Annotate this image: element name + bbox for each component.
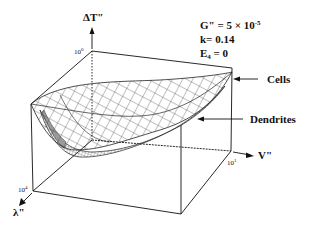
v-axis-label: V" <box>258 150 272 161</box>
z-axis-tick: 100 <box>74 47 84 56</box>
z-axis-label: ΔT" <box>83 12 103 23</box>
lambda-axis-label: λ" <box>13 207 25 218</box>
lambda-axis-arrow <box>19 193 32 206</box>
param-g: G" = 5 × 10-5 <box>200 20 261 31</box>
v-axis-tick: 101 <box>227 158 237 167</box>
param-e4: E4 = 0 <box>200 48 228 61</box>
cells-label: Cells <box>267 74 290 85</box>
dendrites-label: Dendrites <box>250 114 296 125</box>
param-k: k= 0.14 <box>200 34 234 45</box>
lambda-axis-tick: 104 <box>18 185 28 194</box>
